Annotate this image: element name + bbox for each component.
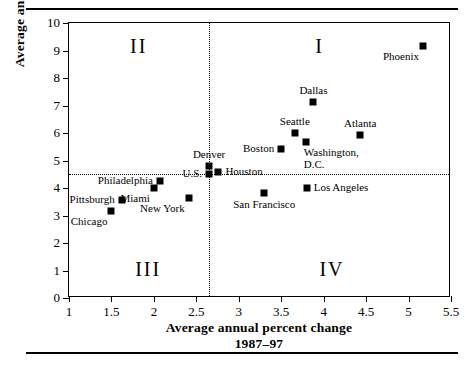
x-tick-label: 2.5 (188, 304, 204, 320)
x-axis-title-line2: 1987–97 (68, 336, 450, 352)
data-point-marker (419, 43, 426, 50)
data-point-marker (302, 139, 309, 146)
y-tick-label: 2 (54, 235, 61, 251)
data-point-label: Atlanta (344, 118, 376, 130)
y-tick-label: 3 (54, 208, 61, 224)
x-tick-label: 3 (236, 304, 243, 320)
y-tick (63, 271, 69, 272)
x-tick (239, 296, 240, 302)
data-point-label: Boston (243, 143, 274, 155)
y-tick-label: 6 (54, 125, 61, 141)
y-tick (63, 78, 69, 79)
x-tick (69, 296, 70, 302)
data-point-label: Dallas (299, 85, 327, 97)
y-tick-label: 4 (54, 180, 61, 196)
data-point-marker (357, 132, 364, 139)
y-tick (63, 23, 69, 24)
data-point-marker (261, 190, 268, 197)
x-tick-label: 3.5 (273, 304, 289, 320)
quadrant-label-iii: III (135, 258, 161, 281)
data-point-label: Pittsburgh (70, 194, 115, 206)
x-tick (451, 296, 452, 302)
y-tick-label: 1 (54, 263, 61, 279)
x-tick-label: 4.5 (358, 304, 374, 320)
x-tick-label: 4 (320, 304, 327, 320)
x-tick (281, 296, 282, 302)
data-point-label: New York (140, 203, 185, 215)
x-tick (196, 296, 197, 302)
data-point-label: Los Angeles (314, 182, 369, 194)
x-axis-title: Average annual percent change 1987–97 (68, 320, 450, 353)
data-point-marker (291, 130, 298, 137)
data-point-label: Seattle (280, 116, 310, 128)
quadrant-label-i: I (315, 35, 324, 58)
data-point-label: Chicago (71, 216, 108, 228)
x-tick (111, 296, 112, 302)
data-point-marker (303, 185, 310, 192)
data-point-marker (310, 98, 317, 105)
y-tick (63, 188, 69, 189)
y-tick (63, 133, 69, 134)
data-point-marker (206, 171, 213, 178)
y-axis-title-line1: Average annual percent change (12, 0, 29, 74)
data-point-marker (206, 163, 213, 170)
data-point-label: Washington,D.C. (304, 147, 359, 170)
x-tick (154, 296, 155, 302)
data-point-label: U.S. (183, 168, 203, 180)
y-axis-title-line2: 1977–87 (29, 0, 46, 74)
y-tick (63, 161, 69, 162)
x-tick (409, 296, 410, 302)
data-point-label: Philadelphia (98, 175, 153, 187)
data-point-marker (156, 177, 163, 184)
y-tick (63, 216, 69, 217)
x-tick-label: 2 (151, 304, 158, 320)
x-axis-title-line1: Average annual percent change (68, 320, 450, 336)
quadrant-label-iv: IV (319, 258, 344, 281)
y-tick (63, 243, 69, 244)
y-tick-label: 9 (54, 43, 61, 59)
y-tick-label: 8 (54, 70, 61, 86)
data-point-label: Denver (193, 149, 225, 161)
data-point-marker (185, 194, 192, 201)
y-tick (63, 51, 69, 52)
x-tick (324, 296, 325, 302)
x-tick-label: 1.5 (103, 304, 119, 320)
x-tick (366, 296, 367, 302)
figure: Average annual percent change 1977–87 Av… (0, 0, 473, 365)
data-point-label: Houston (225, 166, 262, 178)
data-point-label: San Francisco (233, 199, 295, 211)
y-tick-label: 0 (54, 290, 61, 306)
y-tick-label: 10 (47, 15, 60, 31)
x-tick-label: 5.5 (443, 304, 459, 320)
plot-area: 012345678910 11.522.533.544.555.5 IIIIII… (68, 22, 450, 297)
y-tick-label: 7 (54, 98, 61, 114)
y-axis-title: Average annual percent change 1977–87 (12, 0, 46, 74)
data-point-label: Phoenix (383, 51, 419, 63)
data-point-marker (215, 168, 222, 175)
y-axis-title-wrap: Average annual percent change 1977–87 (14, 14, 15, 15)
data-point-marker (108, 208, 115, 215)
y-tick-label: 5 (54, 153, 61, 169)
data-point-marker (278, 145, 285, 152)
top-rule (26, 8, 458, 10)
y-tick (63, 106, 69, 107)
x-tick-label: 5 (405, 304, 412, 320)
x-tick-label: 1 (66, 304, 73, 320)
quadrant-label-ii: II (130, 35, 147, 58)
